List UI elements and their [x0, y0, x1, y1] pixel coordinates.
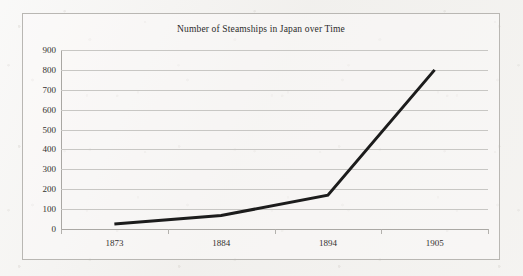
chart-title: Number of Steamships in Japan over Time — [23, 24, 499, 34]
y-tick-label-800: 800 — [43, 65, 57, 75]
x-tick-mark — [275, 229, 276, 234]
y-tick-label-400: 400 — [43, 144, 57, 154]
y-tick-label-200: 200 — [43, 184, 57, 194]
x-tick-mark — [381, 229, 382, 234]
y-tick-label-0: 0 — [52, 224, 57, 234]
chart-page: Number of Steamships in Japan over Time … — [0, 0, 523, 276]
x-tick-mark — [488, 229, 489, 234]
y-tick-label-100: 100 — [43, 204, 57, 214]
x-tick-label-1894: 1894 — [319, 238, 337, 248]
x-tick-label-1884: 1884 — [212, 238, 230, 248]
x-tick-mark — [61, 229, 62, 234]
y-tick-label-700: 700 — [43, 85, 57, 95]
y-tick-label-500: 500 — [43, 125, 57, 135]
x-tick-mark — [168, 229, 169, 234]
y-tick-label-900: 900 — [43, 45, 57, 55]
x-tick-label-1873: 1873 — [105, 238, 123, 248]
y-tick-label-300: 300 — [43, 164, 57, 174]
y-tick-label-600: 600 — [43, 105, 57, 115]
x-tick-label-1905: 1905 — [426, 238, 444, 248]
series-polyline — [114, 70, 434, 224]
plot-area: 0100200300400500600700800900 18731884189… — [61, 50, 488, 229]
chart-frame: Number of Steamships in Japan over Time … — [22, 13, 500, 260]
line-series-steamships — [61, 50, 488, 229]
